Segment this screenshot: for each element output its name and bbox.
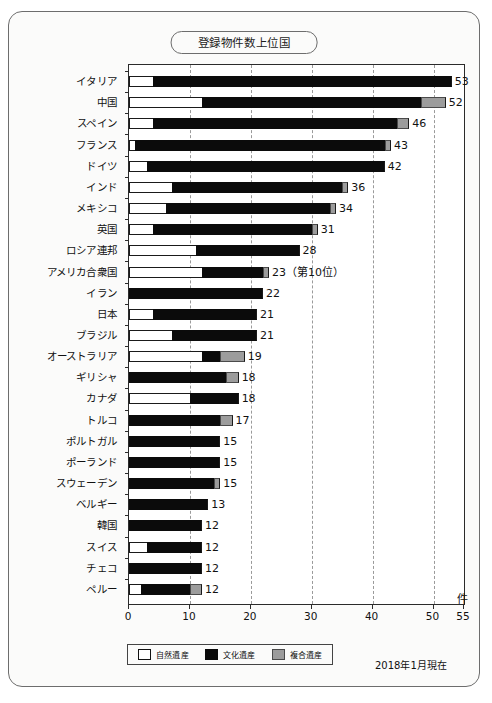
category-label: 韓国: [97, 520, 117, 531]
category-label: スウェーデン: [56, 478, 117, 489]
x-tick-mark: [250, 605, 251, 609]
bar-value-label: 12: [205, 584, 219, 595]
bar-segment-自然遺産: [129, 393, 190, 404]
bar-segment-複合遺産: [214, 478, 220, 489]
category-label: オーストラリア: [47, 351, 117, 362]
bar-segment-自然遺産: [129, 182, 172, 193]
category-label: カナダ: [86, 393, 117, 404]
bar-2: [129, 97, 446, 108]
bar-segment-複合遺産: [421, 97, 445, 108]
bar-segment-文化遺産: [129, 520, 202, 531]
bar-3: [129, 118, 409, 129]
bar-segment-自然遺産: [129, 542, 147, 553]
bar-value-label: 17: [236, 415, 250, 426]
bar-7: [129, 203, 336, 214]
x-axis: 0102030405055: [128, 605, 465, 631]
category-label: イタリア: [76, 76, 117, 87]
bar-value-label: 21: [260, 309, 274, 320]
legend-item-natural: 自然遺産: [138, 649, 189, 660]
bar-segment-文化遺産: [129, 372, 226, 383]
category-label: ペルー: [86, 584, 117, 595]
x-tick-label: 20: [243, 610, 256, 622]
legend-label-cultural: 文化遺産: [223, 649, 256, 660]
bar-segment-複合遺産: [397, 118, 409, 129]
legend-item-mixed: 複合遺産: [272, 649, 323, 660]
axis-tick: [125, 156, 129, 157]
bar-segment-複合遺産: [190, 584, 202, 595]
bar-16: [129, 393, 239, 404]
bar-value-label: 52: [449, 97, 463, 108]
bar-6: [129, 182, 348, 193]
category-label: チェコ: [86, 563, 117, 574]
legend-label-natural: 自然遺産: [156, 649, 189, 660]
bar-11: [129, 288, 263, 299]
bar-4: [129, 140, 391, 151]
legend-item-cultural: 文化遺産: [205, 649, 256, 660]
bar-segment-文化遺産: [166, 203, 330, 214]
bar-segment-自然遺産: [129, 309, 153, 320]
x-tick-mark: [433, 605, 434, 609]
x-tick-label: 40: [365, 610, 378, 622]
bar-value-label: 46: [412, 118, 426, 129]
bar-segment-文化遺産: [153, 309, 257, 320]
bar-13: [129, 330, 257, 341]
axis-tick: [125, 261, 129, 262]
bar-value-label: 15: [223, 478, 237, 489]
bar-18: [129, 436, 220, 447]
bar-segment-複合遺産: [263, 267, 269, 278]
bar-segment-複合遺産: [226, 372, 238, 383]
category-label: 中国: [97, 97, 117, 108]
bar-segment-文化遺産: [153, 224, 311, 235]
plot-area: 53524643423634312823（第10位）22212119181817…: [128, 64, 465, 605]
bar-22: [129, 520, 202, 531]
bar-segment-文化遺産: [153, 118, 397, 129]
bar-segment-文化遺産: [202, 267, 263, 278]
category-label: インド: [86, 182, 117, 193]
bar-segment-自然遺産: [129, 161, 147, 172]
category-label: ポーランド: [66, 457, 117, 468]
category-label: スペイン: [77, 118, 117, 129]
x-tick-label: 0: [125, 610, 132, 622]
axis-tick: [125, 304, 129, 305]
axis-tick: [125, 113, 129, 114]
legend-label-mixed: 複合遺産: [290, 649, 323, 660]
axis-tick: [125, 240, 129, 241]
bar-segment-自然遺産: [129, 245, 196, 256]
category-label: ポルトガル: [66, 436, 117, 447]
bar-value-label: 15: [223, 436, 237, 447]
category-label: メキシコ: [76, 203, 117, 214]
bar-segment-文化遺産: [129, 457, 220, 468]
x-tick-mark: [311, 605, 312, 609]
bar-value-label: 15: [223, 457, 237, 468]
axis-tick: [125, 537, 129, 538]
category-label: イラン: [86, 288, 117, 299]
legend-swatch-cultural-icon: [205, 649, 218, 660]
bar-value-label: 12: [205, 563, 219, 574]
bar-segment-文化遺産: [147, 161, 385, 172]
bar-segment-自然遺産: [129, 76, 153, 87]
axis-tick: [125, 134, 129, 135]
x-tick-label: 50: [426, 610, 439, 622]
bar-segment-文化遺産: [129, 436, 220, 447]
bar-segment-自然遺産: [129, 118, 153, 129]
bar-value-label: 53: [455, 76, 469, 87]
bar-20: [129, 478, 220, 489]
category-label: ブラジル: [76, 330, 117, 341]
bar-segment-文化遺産: [153, 76, 451, 87]
bar-value-label: 43: [394, 140, 408, 151]
category-label: ベルギー: [76, 499, 117, 510]
bar-value-label: 23（第10位）: [272, 267, 344, 278]
bar-segment-文化遺産: [147, 542, 202, 553]
bar-segment-文化遺産: [190, 393, 239, 404]
bar-10: [129, 267, 269, 278]
chart-card: 登録物件数上位国 イタリア中国スペインフランスドイツインドメキシコ英国ロシア連邦…: [8, 11, 480, 687]
bar-9: [129, 245, 300, 256]
bar-segment-文化遺産: [129, 563, 202, 574]
axis-tick: [125, 283, 129, 284]
x-tick-mark: [189, 605, 190, 609]
bar-segment-自然遺産: [129, 224, 153, 235]
category-label: ドイツ: [86, 161, 117, 172]
bar-segment-複合遺産: [385, 140, 391, 151]
axis-tick: [125, 473, 129, 474]
bar-segment-自然遺産: [129, 203, 166, 214]
